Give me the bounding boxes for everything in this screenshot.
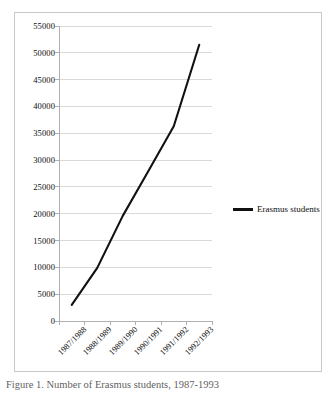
legend-item-label: Erasmus students	[257, 205, 320, 214]
y-axis-tick-label: 35000	[33, 129, 55, 138]
figure-caption: Figure 1. Number of Erasmus students, 19…	[6, 378, 326, 391]
y-axis-tick-label: 30000	[33, 156, 55, 165]
series-line-erasmus-students	[72, 45, 200, 305]
y-axis-tick-label: 20000	[33, 209, 55, 218]
y-axis-tick-label: 40000	[33, 102, 55, 111]
y-axis-tick-label: 10000	[33, 263, 55, 272]
y-axis-tick-label: 5000	[38, 290, 55, 299]
x-axis-labels: 1987/19881988/19891989/19901990/19911991…	[59, 321, 212, 373]
plot-wrapper: 0500010000150002000025000300003500040000…	[15, 13, 321, 371]
series-erasmus-students	[59, 26, 212, 321]
y-axis-tick-label: 0	[51, 317, 55, 326]
y-axis-tick-label: 15000	[33, 236, 55, 245]
y-axis-tick-label: 45000	[33, 75, 55, 84]
legend-line-swatch	[233, 208, 253, 210]
chart-figure: 0500010000150002000025000300003500040000…	[14, 12, 322, 372]
y-axis-labels: 0500010000150002000025000300003500040000…	[15, 13, 55, 371]
chart-legend: Erasmus students	[233, 205, 320, 214]
y-axis-tick-label: 50000	[33, 49, 55, 58]
y-axis-tick-label: 25000	[33, 183, 55, 192]
plot-area	[59, 26, 212, 321]
y-axis-tick-label: 55000	[33, 22, 55, 31]
